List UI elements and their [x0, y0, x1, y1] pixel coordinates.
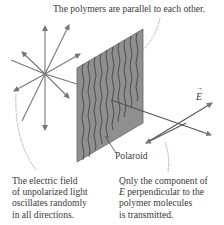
caption-text: perpendicular to the — [127, 186, 204, 197]
leader-left — [16, 94, 36, 170]
unpolarized-caption: The electric field of unpolarized light … — [12, 175, 88, 220]
transmitted-caption: Only the component of E perpendicular to… — [119, 175, 208, 220]
e-vector-symbol: E — [196, 91, 202, 102]
electric-field-vector-label: E — [196, 91, 202, 102]
caption-line: Only the component of — [119, 175, 208, 186]
polaroid-sheet — [77, 29, 143, 162]
e-vector-symbol: E — [119, 186, 125, 197]
polaroid-label: Polaroid — [115, 150, 148, 161]
caption-line-with-vector: E perpendicular to the — [119, 186, 208, 197]
leader-right — [165, 142, 169, 172]
caption-line: in all directions. — [12, 209, 88, 220]
caption-line: The electric field — [12, 175, 88, 186]
caption-line: is transmitted. — [119, 209, 208, 220]
caption-line: polymer molecules — [119, 197, 208, 208]
polymers-parallel-label: The polymers are parallel to each other. — [53, 3, 205, 14]
unpolarized-field-star — [11, 25, 80, 130]
caption-line: of unpolarized light — [12, 186, 88, 197]
caption-line: oscillates randomly — [12, 197, 88, 208]
